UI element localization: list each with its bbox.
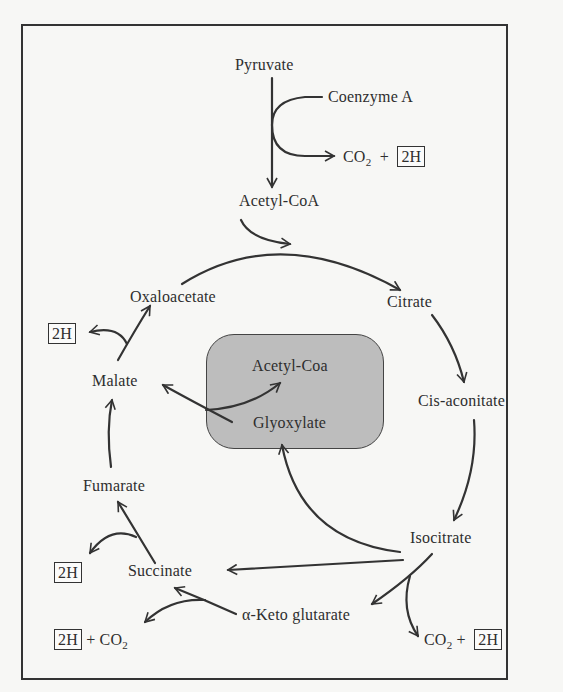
label-fumarate: Fumarate [83, 477, 145, 495]
label-shunt-acetyl-coa: Acetyl-Coa [252, 357, 328, 375]
label-alpha-keto-glutarate: α-Keto glutarate [242, 606, 350, 624]
label-cis-aconitate: Cis-aconitate [418, 392, 505, 410]
label-coenzyme-a: Coenzyme A [328, 88, 413, 106]
label-citrate: Citrate [387, 293, 432, 311]
label-malate-2h: 2H [48, 323, 76, 344]
arrow-citrate-to-cis-aconitate [432, 315, 464, 382]
arrow-coenzyme-a-curve [272, 97, 334, 156]
arrow-glyoxylate-to-malate [163, 385, 232, 422]
arrow-isocitrate-to-succinate [228, 560, 403, 570]
label-isocitrate-co2-2h: CO2 + 2H [424, 629, 502, 651]
label-glyoxylate: Glyoxylate [253, 414, 326, 432]
label-pyruvate: Pyruvate [235, 56, 293, 74]
label-oxaloacetate: Oxaloacetate [130, 288, 216, 306]
arrow-akg-co2-branch [145, 600, 205, 622]
label-acetyl-coa: Acetyl-CoA [239, 192, 319, 210]
arrow-cis-aconitate-to-isocitrate [454, 420, 475, 520]
arrow-succinate-2h-branch [90, 533, 136, 553]
hydrogen-box: 2H [397, 146, 425, 167]
label-succinate: Succinate [128, 562, 192, 580]
label-isocitrate: Isocitrate [410, 529, 472, 547]
arrow-oxaloacetate-to-citrate [182, 254, 400, 290]
arrow-isocitrate-co2-branch [406, 576, 418, 636]
label-malate: Malate [92, 372, 138, 390]
label-entry-co2-2h: CO2 + 2H [343, 146, 425, 168]
pathway-arrows [0, 0, 563, 692]
arrow-fumarate-to-malate [109, 400, 112, 467]
label-akg-2h-co2: 2H + CO2 [54, 629, 128, 651]
arrow-acetyl-coa-join [241, 220, 290, 244]
arrow-shunt-acetyl-coa-curve [206, 383, 280, 410]
arrow-malate-to-oxaloacetate [118, 306, 150, 360]
arrow-isocitrate-to-glyoxylate [282, 445, 400, 552]
label-succinate-2h: 2H [54, 562, 82, 583]
arrow-malate-2h-branch [90, 330, 127, 344]
